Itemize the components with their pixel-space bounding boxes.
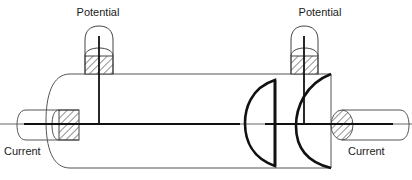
far-end-cap-arc — [296, 74, 331, 168]
current-block-face-left — [52, 110, 59, 140]
potential-label-left: Potential — [77, 6, 120, 18]
current-label-left: Current — [4, 145, 41, 157]
potential-label-right: Potential — [299, 6, 342, 18]
current-label-right: Current — [348, 145, 385, 157]
current-electrode-right[interactable] — [265, 108, 409, 142]
end-cap-arc-curve — [296, 74, 331, 168]
potential-probe-right[interactable] — [291, 26, 318, 124]
specimen-cylinder — [46, 74, 331, 168]
potential-probe-left[interactable] — [85, 26, 113, 124]
current-contact-hatch-left — [59, 110, 79, 140]
current-electrode-left[interactable] — [17, 110, 240, 140]
current-contact-hatch-right — [331, 108, 355, 142]
four-point-probe-diagram: Potential Potential Current Current — [0, 0, 412, 180]
schematic-canvas: Potential Potential Current Current — [0, 0, 412, 180]
equipotential-lens — [245, 80, 275, 166]
current-rod-left-cap — [17, 110, 26, 140]
current-rod-right-cap — [400, 110, 409, 140]
lens-arc — [245, 80, 275, 166]
